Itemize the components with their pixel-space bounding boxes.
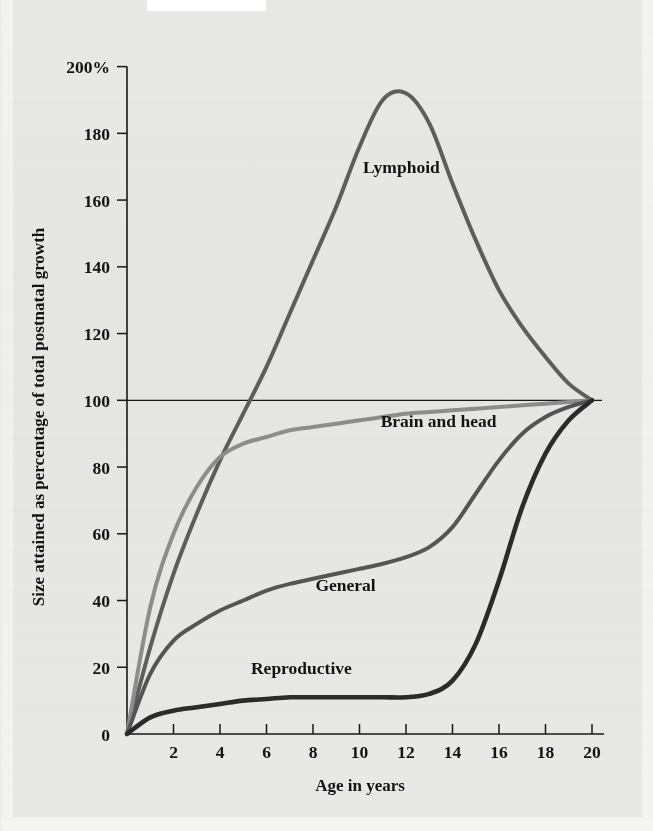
y-tick-label: 0 [101, 725, 110, 745]
x-axis-title: Age in years [315, 776, 405, 795]
y-tick-label: 200% [66, 57, 110, 77]
series-label-general: General [315, 575, 375, 595]
x-tick-label: 12 [397, 742, 415, 762]
y-tick-label: 180 [84, 124, 111, 144]
x-tick-label: 2 [169, 742, 178, 762]
series-label-brain-and-head: Brain and head [381, 411, 497, 431]
x-tick-label: 8 [309, 742, 318, 762]
y-tick-label: 40 [93, 591, 111, 611]
scammon-growth-curves-chart: 020406080100120140160180200% 24681012141… [0, 0, 653, 831]
y-tick-label: 120 [84, 324, 111, 344]
x-tick-label: 16 [490, 742, 508, 762]
y-tick-label: 100 [84, 391, 111, 411]
x-tick-label: 18 [537, 742, 555, 762]
curve-general [127, 400, 592, 734]
y-tick-label: 160 [84, 191, 111, 211]
series-label-reproductive: Reproductive [251, 658, 352, 678]
x-tick-label: 10 [351, 742, 369, 762]
x-axis: 2468101214161820 [127, 724, 604, 762]
y-axis: 020406080100120140160180200% [66, 57, 127, 744]
x-tick-label: 20 [583, 742, 601, 762]
y-tick-label: 60 [93, 524, 111, 544]
y-tick-label: 140 [84, 257, 111, 277]
figure-page: 020406080100120140160180200% 24681012141… [0, 0, 653, 831]
curves [127, 91, 592, 734]
y-tick-label: 20 [93, 658, 111, 678]
series-label-lymphoid: Lymphoid [363, 157, 440, 177]
x-tick-label: 4 [216, 742, 225, 762]
y-axis-title: Size attained as percentage of total pos… [29, 227, 48, 606]
curve-lymphoid [127, 91, 592, 734]
x-tick-label: 14 [444, 742, 462, 762]
x-tick-label: 6 [262, 742, 271, 762]
y-tick-label: 80 [93, 458, 111, 478]
